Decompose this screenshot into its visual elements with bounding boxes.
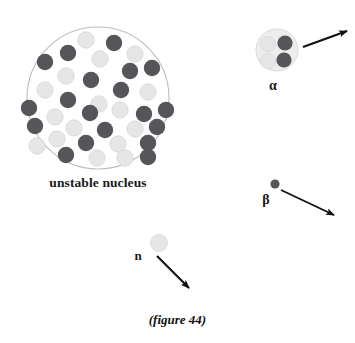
proton-particle (144, 60, 160, 76)
proton-particle (158, 102, 174, 118)
neutron-particle-label: n (124, 249, 152, 262)
neutron-emission-arrow (157, 256, 189, 288)
neutron-particle (49, 131, 65, 147)
proton-particle (78, 135, 94, 151)
beta-particle-label: β (246, 193, 286, 207)
radioactive-decay-figure: unstable nucleus α β n (figure 44) (0, 0, 355, 343)
neutron-particle (92, 51, 108, 67)
proton-particle (140, 149, 156, 165)
neutron-particle (127, 46, 143, 62)
alpha-particle-group (256, 29, 347, 71)
neutron-particle (112, 102, 128, 118)
proton-particle (140, 135, 156, 151)
alpha-particle-label: α (248, 79, 298, 93)
neutron-particle (260, 36, 275, 51)
proton-particle (113, 82, 129, 98)
neutron-particle (66, 120, 82, 136)
proton-particle (60, 92, 76, 108)
proton-particle (37, 54, 53, 70)
decay-diagram-canvas (0, 0, 355, 343)
proton-particle (82, 105, 98, 121)
free-neutron-circle (151, 235, 168, 252)
neutron-particle (29, 138, 45, 154)
neutron-particle (117, 150, 133, 166)
proton-particle (276, 52, 291, 67)
proton-particle (60, 45, 76, 61)
proton-particle (106, 35, 122, 51)
unstable-nucleus-group (21, 27, 174, 169)
neutron-particle (151, 235, 168, 252)
neutron-particle-group (151, 235, 190, 289)
neutron-particle (127, 121, 143, 137)
beta-emission-arrow (281, 190, 334, 215)
proton-particle (136, 106, 152, 122)
alpha-emission-arrow (303, 31, 347, 47)
proton-particle (83, 72, 99, 88)
neutron-particle (37, 82, 53, 98)
proton-particle (122, 63, 138, 79)
neutron-particle (58, 68, 74, 84)
proton-particle (27, 118, 43, 134)
beta-electron-dot (270, 179, 279, 188)
neutron-particle (260, 53, 275, 68)
figure-caption: (figure 44) (0, 313, 355, 326)
neutron-particle (140, 84, 156, 100)
proton-particle (277, 35, 292, 50)
unstable-nucleus-label: unstable nucleus (0, 176, 196, 190)
proton-particle (97, 122, 113, 138)
proton-particle (21, 100, 37, 116)
proton-particle (58, 147, 74, 163)
proton-particle (149, 119, 165, 135)
neutron-particle (47, 109, 63, 125)
proton-particle (270, 179, 279, 188)
neutron-particle (89, 150, 105, 166)
neutron-particle (78, 32, 94, 48)
